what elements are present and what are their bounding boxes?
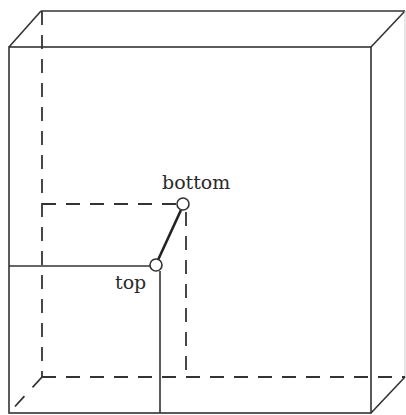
- box-diagram: bottom top: [0, 0, 406, 415]
- rod: [158, 210, 181, 260]
- top-label: top: [115, 271, 146, 293]
- front-face: [9, 47, 371, 413]
- bottom-left-diagonal-dashed: [9, 377, 42, 413]
- bottom-right-diagonal: [371, 377, 405, 413]
- top-point-circle: [150, 259, 162, 271]
- top-left-diagonal: [9, 11, 41, 47]
- top-right-diagonal: [371, 11, 405, 47]
- bottom-point-circle: [177, 198, 189, 210]
- bottom-label: bottom: [162, 171, 230, 193]
